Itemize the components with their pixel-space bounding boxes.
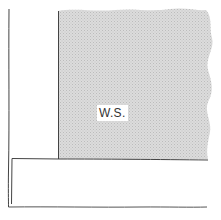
ws-label: W.S.: [97, 105, 128, 121]
ws-shaded-region: [58, 8, 213, 159]
outer-left-line: [8, 9, 9, 207]
lower-band-outline: [12, 159, 209, 205]
